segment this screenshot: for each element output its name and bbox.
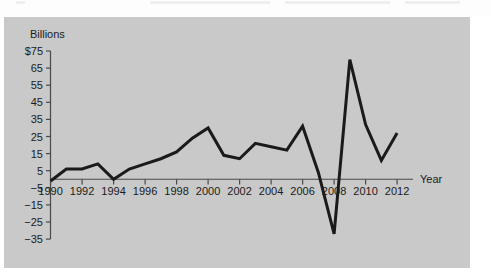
ytick-label: 65 bbox=[31, 62, 43, 74]
xtick-label: 2002 bbox=[227, 185, 251, 197]
chart-figure: $75 65 55 45 35 25 15 5 −5 −15 −25 −35 B… bbox=[0, 0, 491, 279]
scan-artifact-band bbox=[0, 0, 491, 17]
ytick-label: −35 bbox=[24, 233, 43, 245]
chart-panel: $75 65 55 45 35 25 15 5 −5 −15 −25 −35 B… bbox=[4, 17, 470, 268]
ytick-label: 35 bbox=[31, 113, 43, 125]
x-axis-tick-labels: 1990 1992 1994 1996 1998 2000 2002 2004 … bbox=[38, 185, 409, 197]
ytick-label: 25 bbox=[31, 131, 43, 143]
xtick-label: 1996 bbox=[133, 185, 157, 197]
xtick-label: 2000 bbox=[196, 185, 220, 197]
line-chart-plot: $75 65 55 45 35 25 15 5 −5 −15 −25 −35 B… bbox=[4, 17, 470, 268]
xtick-label: 1994 bbox=[101, 185, 125, 197]
xtick-label: 2004 bbox=[259, 185, 283, 197]
y-axis-ticks bbox=[46, 51, 51, 239]
xtick-label: 1990 bbox=[38, 185, 62, 197]
y-axis-unit-label: Billions bbox=[30, 28, 65, 40]
ytick-label: −15 bbox=[24, 199, 43, 211]
xtick-label: 1992 bbox=[70, 185, 94, 197]
xtick-label: 2010 bbox=[353, 185, 377, 197]
ytick-label: 5 bbox=[37, 165, 43, 177]
xtick-label: 2012 bbox=[385, 185, 409, 197]
y-axis-tick-labels: $75 65 55 45 35 25 15 5 −5 −15 −25 −35 bbox=[24, 45, 43, 245]
xtick-label: 1998 bbox=[164, 185, 188, 197]
ytick-label: 55 bbox=[31, 79, 43, 91]
x-axis-ticks bbox=[51, 179, 398, 184]
xtick-label: 2006 bbox=[290, 185, 314, 197]
data-series-line bbox=[51, 60, 398, 234]
x-axis-title: Year bbox=[420, 173, 443, 185]
ytick-label: 45 bbox=[31, 96, 43, 108]
ytick-label: 15 bbox=[31, 148, 43, 160]
ytick-label: $75 bbox=[25, 45, 43, 57]
ytick-label: −25 bbox=[24, 216, 43, 228]
